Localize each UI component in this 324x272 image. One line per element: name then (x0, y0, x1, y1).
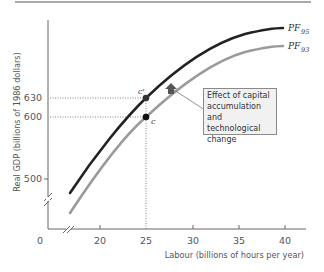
y-tick-630: 630 (24, 92, 42, 103)
x-tick-20: 20 (94, 235, 106, 246)
x-tick-35: 35 (233, 235, 245, 246)
guide-lines (50, 98, 146, 229)
x-tick-0: 0 (37, 235, 43, 246)
production-function-chart: 0 20 25 30 35 40 500 600 630 Labour (bil… (0, 0, 324, 272)
svg-text:PF: PF (287, 23, 301, 33)
y-axis-title: Real GDP (billions of 1986 dollars) (12, 52, 22, 192)
annotation-leader (174, 90, 205, 110)
x-axis (48, 225, 306, 233)
y-axis (44, 20, 52, 229)
point-c-label: c (151, 117, 156, 126)
point-c (143, 114, 150, 121)
pf93-label: PF 93 (287, 41, 309, 54)
annotation-box: Effect of capital accumulation and techn… (203, 88, 277, 135)
svg-text:PF: PF (287, 41, 301, 51)
point-c-prime-label: c' (138, 87, 145, 96)
y-tick-500: 500 (24, 173, 42, 184)
x-tick-30: 30 (187, 235, 199, 246)
pf95-label: PF 95 (287, 23, 309, 36)
x-tick-25: 25 (140, 235, 152, 246)
svg-text:93: 93 (301, 46, 309, 54)
y-tick-600: 600 (24, 111, 42, 122)
x-axis-title: Labour (billions of hours per year) (165, 250, 304, 260)
x-tick-40: 40 (279, 235, 291, 246)
svg-text:95: 95 (301, 28, 309, 36)
